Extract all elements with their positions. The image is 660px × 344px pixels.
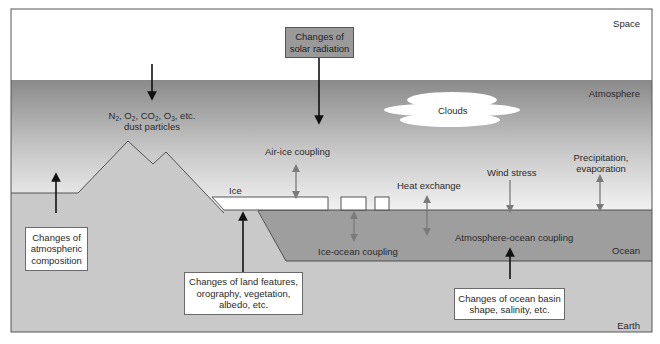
- heat-exchange-label: Heat exchange: [397, 180, 461, 191]
- atmospheric-composition-box: Changes ofatmosphericcomposition: [25, 227, 88, 271]
- ice-ocean-coupling-label: Ice-ocean coupling: [318, 246, 398, 257]
- atmospheric-gases-label: N2, O2, CO2, O3, etc. dust particles: [102, 110, 202, 132]
- ice-label: Ice: [229, 185, 242, 196]
- air-ice-coupling-label: Air-ice coupling: [265, 146, 330, 157]
- earth-label: Earth: [617, 320, 640, 331]
- ocean-label: Ocean: [612, 245, 640, 256]
- wind-stress-label: Wind stress: [487, 167, 537, 178]
- ocean-basin-box: Changes of ocean basinshape, salinity, e…: [454, 288, 565, 320]
- ice-floe: [341, 197, 366, 210]
- atmosphere-label: Atmosphere: [589, 88, 640, 99]
- precipitation-evaporation-label: Precipitation,evaporation: [566, 152, 636, 174]
- atmosphere-ocean-coupling-label: Atmosphere-ocean coupling: [455, 232, 573, 243]
- solar-radiation-box: Changes ofsolar radiation: [285, 27, 354, 58]
- ice-shelf: [212, 197, 328, 210]
- space-label: Space: [613, 18, 640, 29]
- clouds-label: Clouds: [438, 105, 468, 116]
- ice-floe: [375, 197, 389, 210]
- land-features-box: Changes of land features,orography, vege…: [184, 272, 303, 315]
